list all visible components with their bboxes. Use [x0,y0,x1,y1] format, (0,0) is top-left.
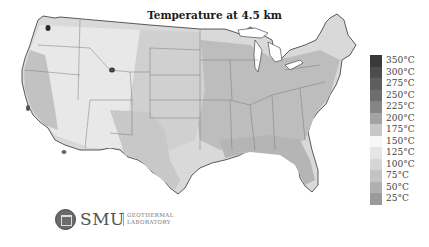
lake-superior [238,28,268,38]
legend-swatch [370,55,382,67]
legend-swatch [370,170,382,182]
legend-swatch [370,67,382,79]
legend-swatch [370,124,382,136]
lab-name-line2: LABORATORY [127,219,174,226]
legend-label: 350°C [386,55,415,67]
legend-swatch [370,90,382,102]
legend-swatch [370,78,382,90]
legend-label: 75°C [386,170,409,182]
lab-name-line1: GEOTHERMAL [127,212,174,219]
legend-label: 300°C [386,67,415,79]
legend-swatch [370,101,382,113]
legend-label: 125°C [386,147,415,159]
legend-label: 150°C [386,136,415,148]
legend-swatch [370,136,382,148]
legend-swatch [370,159,382,171]
legend-label: 275°C [386,78,415,90]
legend-swatch [370,182,382,194]
legend-label: 200°C [386,113,415,125]
hotspot-geysers [26,105,30,111]
legend-label: 100°C [386,159,415,171]
legend-label: 250°C [386,90,415,102]
legend-swatch [370,113,382,125]
lab-name: GEOTHERMAL LABORATORY [123,212,174,226]
smu-seal-icon [55,209,76,230]
legend-swatch [370,193,382,205]
legend-label: 175°C [386,124,415,136]
region-eastern [195,40,340,150]
legend-label: 25°C [386,193,409,205]
legend-swatch [370,147,382,159]
legend-label: 50°C [386,182,409,194]
legend-label: 225°C [386,101,415,113]
hotspot-washington [46,25,51,31]
hotspot-salton [62,150,67,154]
smu-wordmark: SMU [80,209,125,229]
